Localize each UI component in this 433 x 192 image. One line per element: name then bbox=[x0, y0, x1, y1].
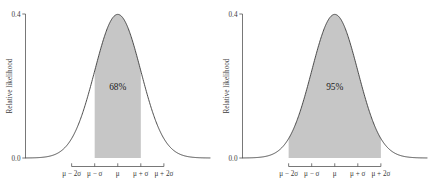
y-tick-label-top: 0.4 bbox=[12, 11, 21, 19]
x-axis-95: μ − 2σ μ − σ μ μ + σ μ + 2σ bbox=[279, 163, 390, 178]
y-axis-title: Relative likelihood bbox=[222, 58, 230, 113]
x-tick-label: μ bbox=[116, 170, 120, 178]
x-tick-label: μ − σ bbox=[87, 170, 103, 178]
panel-95-percent: 0.4 0.0 Relative likelihood μ − 2σ μ − σ… bbox=[217, 0, 433, 192]
x-tick-label: μ + 2σ bbox=[154, 170, 173, 178]
x-axis-68: μ − 2σ μ − σ μ μ + σ μ + 2σ bbox=[62, 163, 173, 178]
y-axis-line bbox=[22, 14, 25, 158]
x-tick-label: μ + σ bbox=[133, 170, 149, 178]
y-axis-95: 0.4 0.0 Relative likelihood bbox=[222, 11, 242, 163]
x-tick-label: μ − 2σ bbox=[279, 170, 298, 178]
x-tick-label: μ bbox=[332, 170, 336, 178]
y-tick-label-top: 0.4 bbox=[228, 11, 237, 19]
percent-annotation: 68% bbox=[109, 82, 126, 92]
x-tick-label: μ − 2σ bbox=[62, 170, 81, 178]
percent-annotation: 95% bbox=[326, 82, 343, 92]
x-tick-label: μ + σ bbox=[350, 170, 366, 178]
y-tick-label-bottom: 0.0 bbox=[12, 155, 21, 163]
x-tick-label: μ + 2σ bbox=[371, 170, 390, 178]
y-tick-label-bottom: 0.0 bbox=[228, 155, 237, 163]
x-axis-line bbox=[288, 163, 380, 166]
normal-distribution-figure: 0.4 0.0 Relative likelihood μ − 2σ μ − σ… bbox=[0, 0, 433, 192]
y-axis-68: 0.4 0.0 Relative likelihood bbox=[6, 11, 26, 163]
panel-68-percent: 0.4 0.0 Relative likelihood μ − 2σ μ − σ… bbox=[0, 0, 217, 192]
x-axis-line bbox=[72, 163, 164, 166]
panel-95-plot: 0.4 0.0 Relative likelihood μ − 2σ μ − σ… bbox=[217, 0, 433, 192]
panel-68-plot: 0.4 0.0 Relative likelihood μ − 2σ μ − σ… bbox=[0, 0, 217, 192]
x-tick-label: μ − σ bbox=[303, 170, 319, 178]
y-axis-title: Relative likelihood bbox=[6, 58, 14, 113]
y-axis-line bbox=[239, 14, 242, 158]
